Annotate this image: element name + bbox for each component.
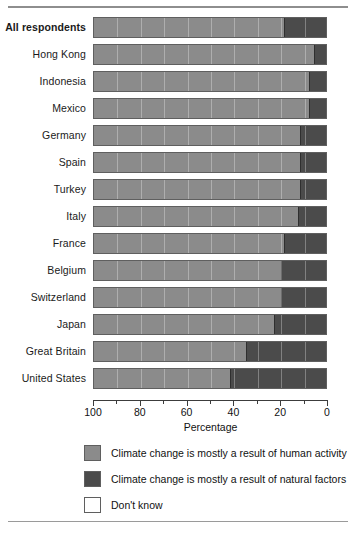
bar-gridline: [305, 315, 306, 334]
stacked-bar: [93, 233, 327, 254]
chart-row: United States: [0, 365, 356, 392]
x-tick-label: 60: [167, 406, 207, 418]
bar-gridline: [281, 369, 282, 388]
category-label: Mexico: [0, 95, 86, 122]
x-tick-minor: [304, 400, 305, 404]
bar-gridline: [164, 261, 165, 280]
bar-segment: [94, 72, 309, 91]
x-tick-label: 40: [213, 406, 253, 418]
bar-gridline: [211, 180, 212, 199]
bar-gridline: [211, 315, 212, 334]
bar-gridline: [164, 72, 165, 91]
bar-gridline: [258, 99, 259, 118]
bar-gridline: [164, 369, 165, 388]
x-tick-minor: [210, 400, 211, 404]
bar-gridline: [117, 342, 118, 361]
bar-gridline: [234, 342, 235, 361]
stacked-bar: [93, 125, 327, 146]
bar-gridline: [188, 342, 189, 361]
bar-gridline: [234, 288, 235, 307]
bar-gridline: [234, 126, 235, 145]
bar-gridline: [234, 261, 235, 280]
bar-segment: [314, 45, 327, 64]
chart-row: France: [0, 230, 356, 257]
bar-gridline: [141, 126, 142, 145]
bar-gridline: [211, 126, 212, 145]
stacked-bar: [93, 206, 327, 227]
bar-gridline: [258, 207, 259, 226]
bar-gridline: [211, 234, 212, 253]
bar-gridline: [117, 45, 118, 64]
chart-row: Italy: [0, 203, 356, 230]
bar-gridline: [117, 288, 118, 307]
bar-gridline: [188, 288, 189, 307]
bar-gridline: [281, 207, 282, 226]
stacked-bar: [93, 287, 327, 308]
bar-gridline: [188, 315, 189, 334]
bar-segment: [298, 207, 327, 226]
bar-gridline: [281, 315, 282, 334]
bar-gridline: [188, 18, 189, 37]
bar-gridline: [141, 99, 142, 118]
bar-gridline: [117, 315, 118, 334]
bar-gridline: [305, 234, 306, 253]
bar-gridline: [141, 261, 142, 280]
bar-gridline: [305, 45, 306, 64]
bar-gridline: [164, 99, 165, 118]
legend-swatch: [84, 445, 101, 461]
bar-gridline: [305, 207, 306, 226]
bar-segment: [94, 18, 284, 37]
chart-row: Japan: [0, 311, 356, 338]
legend-item[interactable]: Don't know: [84, 494, 349, 520]
bar-gridline: [305, 126, 306, 145]
bar-gridline: [281, 18, 282, 37]
bar-gridline: [211, 72, 212, 91]
bar-gridline: [258, 180, 259, 199]
bar-gridline: [281, 153, 282, 172]
bar-gridline: [211, 369, 212, 388]
legend-swatch: [84, 497, 101, 513]
bar-gridline: [117, 72, 118, 91]
bar-gridline: [164, 288, 165, 307]
bar-gridline: [234, 234, 235, 253]
bar-gridline: [234, 207, 235, 226]
bar-gridline: [234, 369, 235, 388]
bar-gridline: [234, 72, 235, 91]
bar-gridline: [258, 45, 259, 64]
bar-gridline: [164, 153, 165, 172]
bar-gridline: [117, 153, 118, 172]
bar-gridline: [188, 207, 189, 226]
bar-gridline: [281, 180, 282, 199]
x-tick-label: 20: [260, 406, 300, 418]
bar-segment: [94, 315, 274, 334]
bar-segment: [94, 99, 309, 118]
bar-gridline: [258, 315, 259, 334]
bar-gridline: [281, 72, 282, 91]
x-tick-label: 0: [307, 406, 347, 418]
stacked-bar: [93, 98, 327, 119]
bar-gridline: [258, 234, 259, 253]
bar-gridline: [188, 45, 189, 64]
legend-item[interactable]: Climate change is mostly a result of hum…: [84, 442, 349, 468]
legend: Climate change is mostly a result of hum…: [84, 442, 349, 520]
category-label: Spain: [0, 149, 86, 176]
chart-row: Belgium: [0, 257, 356, 284]
bar-gridline: [188, 180, 189, 199]
bar-gridline: [211, 45, 212, 64]
bar-gridline: [211, 342, 212, 361]
bar-gridline: [234, 180, 235, 199]
bar-gridline: [305, 153, 306, 172]
bar-gridline: [234, 315, 235, 334]
bar-gridline: [164, 18, 165, 37]
bar-gridline: [258, 342, 259, 361]
bar-gridline: [188, 153, 189, 172]
chart-row: Mexico: [0, 95, 356, 122]
bar-gridline: [141, 234, 142, 253]
bar-gridline: [117, 261, 118, 280]
bar-gridline: [211, 153, 212, 172]
bar-gridline: [188, 72, 189, 91]
x-tick-minor: [116, 400, 117, 404]
bar-gridline: [305, 18, 306, 37]
legend-label: Don't know: [111, 494, 163, 516]
legend-item[interactable]: Climate change is mostly a result of nat…: [84, 468, 349, 494]
